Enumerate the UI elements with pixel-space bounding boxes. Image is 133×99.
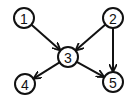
edge-3-to-5: [77, 62, 104, 77]
node-2: 2: [103, 8, 123, 28]
edge-1-to-3: [31, 25, 59, 50]
graph-canvas: 12345: [0, 0, 133, 99]
node-label: 4: [21, 77, 29, 93]
edge-3-to-4: [34, 62, 59, 78]
nodes-layer: 12345: [14, 8, 123, 94]
edge-2-to-3: [76, 25, 105, 50]
node-label: 1: [20, 11, 28, 27]
node-4: 4: [15, 74, 35, 94]
node-label: 2: [109, 11, 117, 27]
node-label: 5: [109, 75, 117, 91]
node-3: 3: [58, 47, 78, 67]
node-label: 3: [64, 50, 72, 66]
node-1: 1: [14, 8, 34, 28]
node-5: 5: [103, 72, 123, 92]
